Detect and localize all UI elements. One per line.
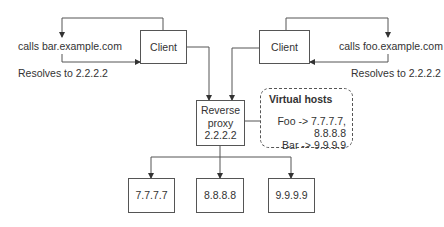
backend-server-3: 9.9.9.9 <box>268 178 315 213</box>
proxy-ip: 2.2.2.2 <box>204 129 236 142</box>
proxy-line-1: Reverse <box>201 104 240 117</box>
right-client-label: Client <box>271 41 298 54</box>
virtual-hosts-box: Virtual hosts Foo -> 7.7.7.7, 8.8.8.8 Ba… <box>260 88 353 148</box>
backend-3-ip: 9.9.9.9 <box>275 189 307 202</box>
vhost-entry-bar: Bar -> 9.9.9.9 <box>277 139 346 151</box>
reverse-proxy-diagram: calls bar.example.com Resolves to 2.2.2.… <box>0 0 444 227</box>
backend-server-1: 7.7.7.7 <box>128 178 175 213</box>
left-resolve-arrow <box>62 54 140 62</box>
right-resolve-arrow <box>310 54 388 62</box>
left-client-box: Client <box>140 30 187 64</box>
vhost-entry-foo-cont: 8.8.8.8 <box>277 127 346 139</box>
vhost-entry-foo: Foo -> 7.7.7.7, <box>277 115 346 127</box>
backend-1-ip: 7.7.7.7 <box>135 189 167 202</box>
reverse-proxy-box: Reverse proxy 2.2.2.2 <box>196 100 245 146</box>
left-client-to-proxy-arrow <box>187 47 209 100</box>
right-call-label: calls foo.example.com <box>339 40 443 52</box>
virtual-hosts-title: Virtual hosts <box>269 93 332 105</box>
right-client-to-proxy-arrow <box>232 48 259 100</box>
backend-server-2: 8.8.8.8 <box>196 178 244 213</box>
left-client-label: Client <box>150 41 177 54</box>
backend-2-ip: 8.8.8.8 <box>204 189 236 202</box>
proxy-line-2: proxy <box>208 117 234 130</box>
virtual-hosts-entries: Foo -> 7.7.7.7, 8.8.8.8 Bar -> 9.9.9.9 <box>277 115 346 151</box>
right-client-box: Client <box>259 30 310 64</box>
right-resolve-label: Resolves to 2.2.2.2 <box>351 67 441 79</box>
left-resolve-label: Resolves to 2.2.2.2 <box>18 67 108 79</box>
left-call-label: calls bar.example.com <box>18 40 122 52</box>
